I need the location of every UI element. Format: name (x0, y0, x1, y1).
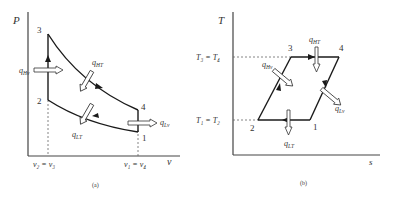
figure-b-ts-diagram: T s T₃ = T₄ T₁ = T₂ 3 4 2 1 (196, 12, 380, 187)
pv-arrow-3-4 (95, 83, 103, 89)
ts-label-qlv: qLv (335, 104, 345, 114)
ts-point-3: 3 (288, 43, 293, 53)
ts-point-4: 4 (339, 43, 344, 53)
ts-arrow-4-1 (322, 80, 327, 88)
ts-arrow-3-4 (308, 54, 315, 60)
ts-heat-arrow-qlv (319, 86, 343, 108)
ts-heat-arrow-qlt (285, 110, 292, 135)
pv-point-1: 1 (142, 133, 147, 143)
ts-ytick-t1-t2: T₁ = T₂ (196, 116, 220, 125)
figure-b-caption: (b) (300, 180, 307, 187)
ts-ytick-t3-t4: T₃ = T₄ (196, 53, 220, 62)
pv-label-qlv: qLv (160, 118, 170, 128)
pv-xtick-v2-v3: v₂ = v₃ (33, 160, 55, 169)
pv-point-2: 2 (37, 96, 42, 106)
ts-point-1: 1 (313, 122, 318, 132)
pv-heat-arrow-qlv (128, 119, 157, 127)
ts-label-qht: qHT (309, 35, 321, 45)
ts-x-axis-label: s (369, 157, 373, 167)
figure-a-caption: (a) (92, 182, 99, 189)
pv-point-3: 3 (37, 25, 42, 35)
figure-a-pv-diagram: P v 3 2 4 1 qHv qHT qLT (12, 12, 180, 189)
pv-point-4: 4 (141, 102, 146, 112)
pv-arrow-2-3 (45, 55, 51, 62)
pv-label-qht: qHT (92, 58, 104, 68)
ts-heat-arrow-qhv (271, 67, 295, 89)
pv-arrow-1-2 (92, 113, 99, 118)
pv-label-qlt: qLT (72, 130, 83, 140)
ts-heat-arrow-qht (313, 47, 320, 72)
ts-point-2: 2 (250, 123, 255, 133)
pv-y-axis-label: P (12, 14, 20, 26)
pv-x-axis-label: v (167, 156, 172, 167)
ts-y-axis-label: T (218, 14, 225, 26)
ts-label-qlt: qLT (284, 139, 295, 149)
pv-xtick-v1-v4: v₁ = v₄ (124, 160, 146, 169)
ts-label-qhv: qHv (262, 60, 273, 70)
pv-heat-arrow-qlt (77, 102, 95, 126)
